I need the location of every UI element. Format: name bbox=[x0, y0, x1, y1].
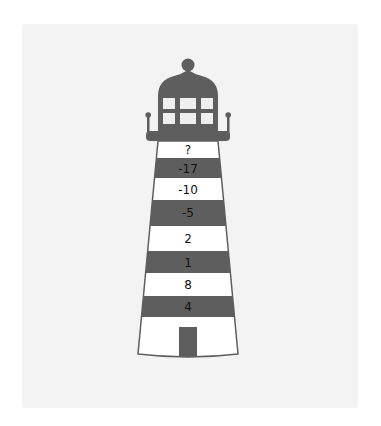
band-label: ? bbox=[185, 143, 191, 157]
window bbox=[180, 98, 196, 109]
window bbox=[201, 113, 213, 124]
lantern bbox=[158, 59, 218, 133]
lighthouse-diagram: ? -17 -10 -5 2 1 8 4 bbox=[0, 0, 381, 426]
band-label: -17 bbox=[178, 162, 198, 176]
band-label: 1 bbox=[184, 256, 192, 270]
window bbox=[163, 98, 175, 109]
band-label: 8 bbox=[184, 278, 192, 292]
window bbox=[163, 113, 175, 124]
window bbox=[180, 113, 196, 124]
dome-knob bbox=[182, 59, 195, 72]
band-label: 2 bbox=[184, 232, 192, 246]
band-label: -10 bbox=[178, 183, 198, 197]
window bbox=[201, 98, 213, 109]
band-label: -5 bbox=[182, 206, 194, 220]
band-label: 4 bbox=[184, 300, 192, 314]
